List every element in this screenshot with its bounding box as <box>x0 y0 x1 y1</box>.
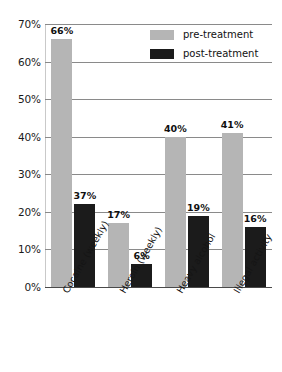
bar-value-label: 19% <box>180 203 217 213</box>
bar-value-label: 16% <box>237 214 274 224</box>
y-axis-tick-label: 70% <box>3 19 41 30</box>
bar-value-label: 17% <box>100 210 137 220</box>
bar-pre-treatment[interactable] <box>51 39 72 287</box>
y-axis-tick-label: 10% <box>3 244 41 255</box>
bar-value-label: 37% <box>66 191 103 201</box>
legend-label: post-treatment <box>183 49 258 59</box>
bar-value-label: 66% <box>43 26 80 36</box>
bar-chart: 70%60%50%40%30%20%10%0% 66%37%17%6%40%19… <box>0 0 282 372</box>
bar-value-label: 40% <box>157 124 194 134</box>
legend-label: pre-treatment <box>183 30 253 40</box>
y-axis-tick-label: 40% <box>3 132 41 143</box>
bar-pre-treatment[interactable] <box>222 133 243 287</box>
legend-item[interactable]: pre-treatment <box>150 26 272 43</box>
legend-swatch <box>150 30 174 40</box>
chart-legend: pre-treatmentpost-treatment <box>150 26 272 64</box>
y-axis-tick-label: 60% <box>3 57 41 68</box>
y-axis-tick-labels: 70%60%50%40%30%20%10%0% <box>0 0 41 372</box>
y-axis-tick-label: 50% <box>3 94 41 105</box>
bar-value-label: 41% <box>214 120 251 130</box>
y-axis-tick-label: 30% <box>3 169 41 180</box>
y-axis-tick-label: 0% <box>3 282 41 293</box>
legend-item[interactable]: post-treatment <box>150 45 272 62</box>
x-axis-category-labels: Cocaine (weekly)Heroin (weekly)Heavy alc… <box>45 290 272 372</box>
legend-swatch <box>150 49 174 59</box>
y-axis-tick-label: 20% <box>3 207 41 218</box>
